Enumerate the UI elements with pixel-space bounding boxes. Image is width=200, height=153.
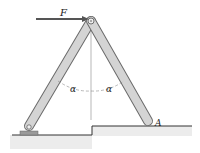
right-bar	[91, 21, 148, 121]
top-pin-center	[90, 20, 92, 22]
pin-support-base	[20, 131, 38, 135]
two-bar-frame-diagram: F α α A	[0, 0, 200, 153]
angle-right-label: α	[106, 84, 112, 94]
point-a-label: A	[154, 118, 162, 128]
force-label: F	[59, 7, 68, 18]
left-pin-icon	[27, 125, 31, 129]
left-bar	[29, 21, 91, 126]
angle-left-label: α	[70, 84, 76, 94]
ground-left-hatch	[10, 135, 92, 149]
ground-right-hatch	[92, 126, 192, 136]
